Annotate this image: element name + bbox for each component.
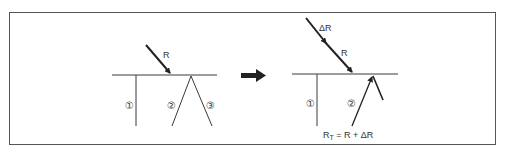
left-path-3-label: ③ xyxy=(206,100,215,111)
left-path-1-label: ① xyxy=(125,100,134,111)
left-incident-label: R xyxy=(163,50,170,60)
right-incident-arrow xyxy=(324,41,352,72)
left-path-2-label: ② xyxy=(167,100,176,111)
right-panel: ΔR R ① ② RT = R + ΔR xyxy=(292,18,398,141)
left-panel: R ① ② ③ xyxy=(112,45,217,126)
right-arrow-icon xyxy=(241,69,266,82)
right-path-2-label: ② xyxy=(347,98,356,109)
right-delta-label: ΔR xyxy=(319,23,332,33)
right-reflected-line xyxy=(373,76,383,100)
right-path-1-label: ① xyxy=(306,98,315,109)
total-formula: RT = R + ΔR xyxy=(323,130,374,141)
diagram-canvas: R ① ② ③ ΔR R ① ② RT = R + ΔR xyxy=(0,0,509,155)
right-incident-label: R xyxy=(341,48,348,58)
